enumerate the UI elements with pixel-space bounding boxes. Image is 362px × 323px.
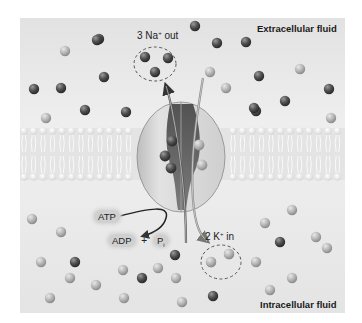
sodium-ion [29, 84, 39, 94]
potassium-ion [91, 280, 101, 290]
phospholipid-head [87, 127, 95, 135]
potassium-ion [206, 257, 216, 267]
phospholipid-head [277, 127, 285, 135]
sodium-potassium-pump-diagram: Extracellular fluid Intracellular fluid … [0, 0, 362, 323]
sodium-ion [254, 71, 264, 81]
potassium-ion [224, 249, 234, 259]
phospholipid-head [115, 173, 123, 181]
extracellular-fluid-label: Extracellular fluid [257, 23, 337, 34]
phospholipid-head [68, 127, 76, 135]
k-direction: in [226, 231, 234, 242]
phospholipid-head [77, 127, 85, 135]
phospholipid-head [248, 127, 256, 135]
sodium-ion [212, 38, 222, 48]
sodium-ion [249, 103, 259, 113]
phospholipid-head [286, 127, 294, 135]
sodium-ion [150, 67, 160, 77]
sodium-ion [99, 72, 109, 82]
phospholipid-head [58, 127, 66, 135]
sodium-ion [190, 21, 200, 31]
phospholipid-head [39, 173, 47, 181]
potassium-ion [326, 113, 336, 123]
sodium-ion [92, 35, 102, 45]
phospholipid-head [248, 173, 256, 181]
potassium-ion [177, 297, 187, 307]
bound-sodium-ion [167, 136, 178, 147]
potassium-ion [295, 64, 305, 74]
potassium-ion [260, 218, 270, 228]
phosphate-subscript: i [163, 242, 164, 248]
sodium-ion [208, 291, 218, 301]
potassium-ion [65, 273, 75, 283]
phospholipid-head [58, 173, 66, 181]
sodium-ion [241, 37, 251, 47]
phospholipid-head [229, 127, 237, 135]
phospholipid-head [258, 173, 266, 181]
potassium-ion [171, 273, 181, 283]
k-charge: + [220, 231, 224, 237]
bound-potassium-ion [194, 140, 205, 151]
sodium-ion [56, 83, 66, 93]
potassium-ion [45, 293, 55, 303]
phospholipid-head [324, 127, 332, 135]
potassium-ion [56, 227, 66, 237]
intracellular-fluid-label: Intracellular fluid [260, 299, 337, 310]
potassium-ion [287, 205, 297, 215]
atp-hydrolysis-arrow [120, 209, 167, 236]
phospholipid-head [277, 173, 285, 181]
sodium-ion [170, 250, 180, 260]
k-symbol: K [213, 231, 220, 242]
na-count: 3 [137, 30, 143, 41]
phospholipid-head [87, 173, 95, 181]
potassium-ion [119, 293, 129, 303]
phospholipid-head [296, 173, 304, 181]
potassium-ion [221, 83, 231, 93]
adp-label: ADP [108, 234, 136, 247]
phospholipid-head [96, 127, 104, 135]
sodium-ion [275, 237, 285, 247]
plus-sign: + [141, 235, 147, 246]
phospholipid-head [229, 173, 237, 181]
phospholipid-head [315, 127, 323, 135]
na-charge: + [158, 30, 162, 36]
phospholipid-head [49, 173, 57, 181]
phospholipid-head [296, 127, 304, 135]
sodium-ion [324, 84, 334, 94]
phospholipid-head [20, 127, 28, 135]
phospholipid-head [315, 173, 323, 181]
potassium-ion [27, 214, 37, 224]
phospholipid-head [267, 173, 275, 181]
phospholipid-head [106, 127, 114, 135]
k-in-label: 2 K+ in [205, 231, 234, 242]
diagram-illustration [0, 0, 362, 323]
phospholipid-head [20, 173, 28, 181]
pi-label: Pi [153, 234, 169, 247]
phospholipid-head [30, 173, 38, 181]
sodium-ion [137, 273, 147, 283]
na-symbol: Na [145, 30, 158, 41]
atp-label: ATP [94, 210, 120, 223]
bound-sodium-ion [166, 163, 177, 174]
phospholipid-head [305, 127, 313, 135]
phospholipid-head [239, 127, 247, 135]
sodium-ion [140, 52, 150, 62]
phospholipid-head [305, 173, 313, 181]
na-out-label: 3 Na+ out [137, 30, 178, 41]
potassium-ion [60, 46, 70, 56]
phospholipid-head [258, 127, 266, 135]
potassium-ion [153, 263, 163, 273]
phospholipid-head [96, 173, 104, 181]
sodium-ion [280, 96, 290, 106]
bound-sodium-ion [160, 151, 171, 162]
phospholipid-head [267, 127, 275, 135]
phospholipid-head [239, 173, 247, 181]
potassium-ion [41, 113, 51, 123]
phospholipid-head [334, 173, 342, 181]
phospholipid-head [115, 127, 123, 135]
sodium-ion [121, 107, 131, 117]
potassium-ion [118, 265, 128, 275]
phospholipid-head [334, 127, 342, 135]
k-count: 2 [205, 231, 211, 242]
sodium-ion [163, 53, 173, 63]
phospholipid-head [125, 127, 133, 135]
